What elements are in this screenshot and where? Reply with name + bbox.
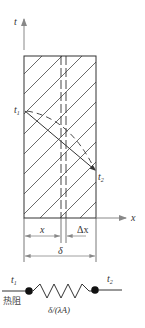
thickness-label: δ	[58, 245, 63, 256]
circuit-t1-label: t1	[11, 274, 17, 286]
heat-conduction-diagram: t t1 t2 x x Δx δ	[0, 0, 145, 328]
wall	[24, 56, 96, 218]
x-axis-label: x	[130, 212, 136, 223]
t2-label: t2	[98, 171, 104, 183]
x-dimension-label: x	[39, 224, 45, 235]
temperature-profile-line	[25, 111, 95, 170]
thermal-resistance-caption: 热阻	[3, 295, 21, 306]
t-axis-label: t	[14, 16, 17, 27]
resistor-zigzag	[33, 284, 89, 298]
thermal-resistance-value: δ/(λA)	[48, 305, 70, 315]
t1-label: t1	[14, 104, 20, 116]
node-t1	[25, 287, 33, 295]
wall-hatching	[24, 18, 100, 228]
circuit-t2-label: t2	[107, 273, 113, 285]
node-t2	[91, 286, 99, 294]
dx-dimension-label: Δx	[77, 224, 88, 235]
